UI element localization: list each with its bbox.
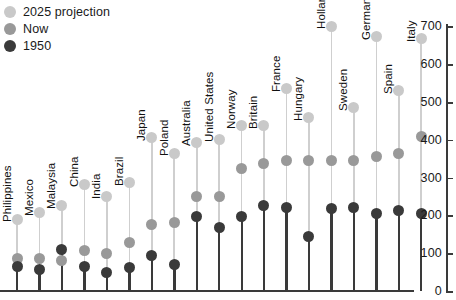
datapoint-1950 bbox=[79, 261, 90, 272]
y-axis-tick-label: 500 bbox=[421, 95, 442, 109]
category-label-holland: Holland bbox=[315, 0, 327, 29]
datapoint-1950 bbox=[191, 211, 202, 222]
datapoint-1950 bbox=[326, 203, 337, 214]
y-axis-tick-label: 300 bbox=[421, 171, 442, 185]
y-axis-tick bbox=[446, 102, 453, 104]
category-label-malaysia: Malaysia bbox=[45, 163, 57, 209]
stem-1950 bbox=[263, 206, 265, 291]
category-label-philippines: Philippines bbox=[1, 165, 13, 222]
datapoint-now bbox=[169, 217, 180, 228]
y-axis-tick bbox=[446, 215, 453, 217]
stem-1950 bbox=[196, 216, 198, 291]
stem-1950 bbox=[353, 207, 355, 291]
datapoint-now bbox=[371, 151, 382, 162]
stem-1950 bbox=[330, 209, 332, 291]
category-label-japan: Japan bbox=[135, 109, 147, 141]
datapoint-projection bbox=[124, 177, 135, 188]
stem-1950 bbox=[285, 208, 287, 291]
category-label-sweden: Sweden bbox=[337, 68, 349, 110]
datapoint-1950 bbox=[371, 208, 382, 219]
datapoint-1950 bbox=[12, 261, 23, 272]
datapoint-now bbox=[124, 237, 135, 248]
y-axis-tick bbox=[446, 178, 453, 180]
stem-1950 bbox=[308, 237, 310, 291]
datapoint-now bbox=[56, 255, 67, 266]
y-axis-tick bbox=[446, 26, 453, 28]
y-axis-tick bbox=[446, 64, 453, 66]
plot-area: PhilippinesMexicoMalaysiaChinaIndiaBrazi… bbox=[0, 0, 410, 300]
y-axis: 0100200300400500600700 bbox=[410, 0, 456, 300]
datapoint-projection bbox=[191, 137, 202, 148]
datapoint-projection bbox=[34, 207, 45, 218]
datapoint-projection bbox=[56, 200, 67, 211]
datapoint-now bbox=[326, 155, 337, 166]
datapoint-1950 bbox=[281, 202, 292, 213]
y-axis-tick-label: 0 bbox=[435, 284, 442, 298]
datapoint-projection bbox=[214, 134, 225, 145]
category-label-mexico: Mexico bbox=[23, 179, 35, 216]
category-label-germany: Germany bbox=[360, 0, 372, 40]
stem-1950 bbox=[375, 213, 377, 291]
datapoint-now bbox=[146, 219, 157, 230]
category-label-spain: Spain bbox=[382, 64, 394, 94]
datapoint-projection bbox=[101, 191, 112, 202]
y-axis-tick-label: 200 bbox=[421, 208, 442, 222]
x-axis-baseline bbox=[0, 290, 414, 292]
y-axis-tick bbox=[446, 253, 453, 255]
datapoint-now bbox=[258, 158, 269, 169]
category-label-norway: Norway bbox=[225, 89, 237, 129]
lollipop-chart: 2025 projection Now 1950 PhilippinesMexi… bbox=[0, 0, 456, 300]
y-axis-tick bbox=[446, 291, 453, 293]
datapoint-1950 bbox=[393, 205, 404, 216]
y-axis-tick bbox=[446, 140, 453, 142]
datapoint-projection bbox=[326, 21, 337, 32]
datapoint-now bbox=[236, 163, 247, 174]
datapoint-1950 bbox=[258, 200, 269, 211]
datapoint-1950 bbox=[124, 262, 135, 273]
datapoint-now bbox=[101, 248, 112, 259]
category-label-united-states: United States bbox=[203, 72, 215, 142]
category-label-china: China bbox=[68, 156, 80, 187]
datapoint-projection bbox=[303, 112, 314, 123]
datapoint-projection bbox=[371, 31, 382, 42]
datapoint-now bbox=[79, 245, 90, 256]
datapoint-1950 bbox=[146, 250, 157, 261]
datapoint-projection bbox=[236, 120, 247, 131]
category-label-australia: Australia bbox=[180, 100, 192, 146]
datapoint-projection bbox=[348, 102, 359, 113]
datapoint-now bbox=[281, 155, 292, 166]
datapoint-projection bbox=[79, 179, 90, 190]
y-axis-tick-label: 100 bbox=[421, 246, 442, 260]
datapoint-1950 bbox=[101, 267, 112, 278]
datapoint-1950 bbox=[348, 202, 359, 213]
category-label-brazil: Brazil bbox=[113, 157, 125, 186]
category-label-france: France bbox=[270, 55, 282, 91]
datapoint-1950 bbox=[56, 244, 67, 255]
y-axis-tick-label: 400 bbox=[421, 133, 442, 147]
datapoint-projection bbox=[12, 214, 23, 225]
y-axis-tick-label: 700 bbox=[421, 19, 442, 33]
category-label-hungary: Hungary bbox=[292, 77, 304, 121]
datapoint-1950 bbox=[236, 211, 247, 222]
stem-1950 bbox=[398, 211, 400, 291]
datapoint-now bbox=[191, 191, 202, 202]
datapoint-projection bbox=[169, 148, 180, 159]
datapoint-now bbox=[348, 155, 359, 166]
datapoint-now bbox=[34, 253, 45, 264]
datapoint-1950 bbox=[34, 264, 45, 275]
stem-1950 bbox=[218, 228, 220, 291]
datapoint-1950 bbox=[303, 231, 314, 242]
stem-1950 bbox=[241, 216, 243, 291]
datapoint-projection bbox=[146, 132, 157, 143]
datapoint-now bbox=[393, 148, 404, 159]
datapoint-now bbox=[214, 191, 225, 202]
datapoint-projection bbox=[258, 120, 269, 131]
category-label-india: India bbox=[90, 174, 102, 199]
datapoint-projection bbox=[281, 83, 292, 94]
category-label-poland: Poland bbox=[158, 120, 170, 156]
datapoint-now bbox=[303, 155, 314, 166]
datapoint-projection bbox=[393, 85, 404, 96]
category-label-britain: Britain bbox=[247, 96, 259, 129]
y-axis-tick-label: 600 bbox=[421, 57, 442, 71]
datapoint-1950 bbox=[214, 222, 225, 233]
